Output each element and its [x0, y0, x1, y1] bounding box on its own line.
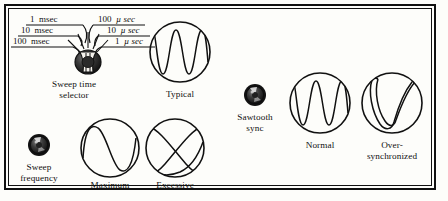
sweep-time-selector-label-line2: selector — [52, 90, 96, 101]
waveform-normal — [290, 73, 350, 133]
caption-line2: synchronized — [367, 151, 417, 162]
sweep-time-selector-knob-icon[interactable] — [68, 32, 108, 74]
sawtooth-sync-knob-icon[interactable] — [244, 84, 266, 106]
sweep-time-position-10msec: 10 msec — [21, 25, 53, 35]
waveform-caption-maximum: Maximum — [91, 180, 130, 191]
sawtooth-sync-label-line2: sync — [237, 123, 273, 134]
sweep-time-selector-label-line1: Sweep time — [52, 79, 96, 90]
sweep-time-position-100msec: 100 msec — [13, 36, 50, 46]
sweep-frequency-label-line2: frequency — [20, 173, 58, 184]
sweep-frequency-label-line1: Sweep — [20, 162, 58, 173]
waveform-typical — [150, 22, 210, 82]
caption-text: Maximum — [91, 180, 130, 191]
waveform-caption-excessive: Excessive — [156, 180, 194, 191]
waveform-caption-normal: Normal — [306, 140, 335, 151]
waveform-excessive — [146, 119, 204, 177]
sweep-frequency-knob-icon[interactable] — [28, 134, 50, 156]
caption-text: Excessive — [156, 180, 194, 191]
sweep-time-position-100usec: 100 µ sec — [98, 14, 135, 24]
sawtooth-sync-label: Sawtooth sync — [237, 112, 273, 133]
diagram-artwork — [0, 0, 448, 201]
sawtooth-sync-label-line1: Sawtooth — [237, 112, 273, 123]
sweep-time-position-10usec: 10 µ sec — [107, 25, 139, 35]
sweep-frequency-label: Sweep frequency — [20, 162, 58, 183]
waveform-caption-typical: Typical — [166, 89, 194, 100]
waveform-maximum — [81, 119, 139, 177]
caption-text: Typical — [166, 89, 194, 100]
waveform-oversynchronized — [362, 73, 422, 133]
sweep-time-position-1msec: 1 msec — [30, 14, 58, 24]
caption-text: Normal — [306, 140, 335, 151]
waveform-caption-oversynchronized: Over- synchronized — [367, 140, 417, 161]
figure-root: 1 msec 10 msec 100 msec 100 µ sec 10 µ s… — [0, 0, 448, 201]
sweep-time-selector-label: Sweep time selector — [52, 79, 96, 100]
caption-line1: Over- — [367, 140, 417, 151]
sweep-time-position-1usec: 1 µ sec — [115, 36, 143, 46]
